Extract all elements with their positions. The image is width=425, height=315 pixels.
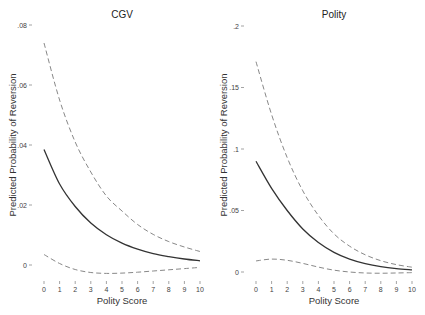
- x-tick-label: 9: [394, 286, 398, 293]
- panel-title-polity: Polity: [322, 9, 346, 20]
- x-axis-label-cgv: Polity Score: [97, 295, 148, 306]
- y-tick-label: .2: [233, 23, 239, 30]
- plot-lines-polity: [256, 62, 412, 274]
- x-tick-label: 5: [332, 286, 336, 293]
- y-tick-label: .08: [17, 22, 27, 29]
- x-axis-label-polity: Polity Score: [309, 295, 360, 306]
- x-tick-label: 5: [120, 286, 124, 293]
- x-tick-label: 2: [73, 286, 77, 293]
- x-tick-label: 7: [363, 286, 367, 293]
- plot-lines-cgv: [44, 43, 200, 273]
- x-axis-ticks-cgv: 012345678910: [42, 281, 204, 293]
- predicted-probability-line: [256, 161, 412, 270]
- x-tick-label: 7: [151, 286, 155, 293]
- y-tick-label: .1: [233, 146, 239, 153]
- x-tick-label: 0: [42, 286, 46, 293]
- x-axis-ticks-polity: 012345678910: [254, 281, 416, 293]
- confidence-interval-line: [256, 62, 412, 268]
- y-tick-label: .04: [17, 142, 27, 149]
- x-tick-label: 8: [379, 286, 383, 293]
- y-tick-label: .02: [17, 202, 27, 209]
- x-tick-label: 10: [196, 286, 204, 293]
- y-tick-label: .15: [229, 84, 239, 91]
- chart-canvas: CGV Predicted Probability of Reversion P…: [0, 0, 425, 315]
- polity-panel: Polity Predicted Probability of Reversio…: [218, 9, 416, 306]
- y-axis-ticks-cgv: 0.02.04.06.08: [17, 22, 32, 269]
- y-axis-label-polity: Predicted Probability of Reversion: [218, 73, 229, 216]
- x-tick-label: 2: [285, 286, 289, 293]
- x-tick-label: 8: [167, 286, 171, 293]
- x-tick-label: 4: [104, 286, 108, 293]
- cgv-panel: CGV Predicted Probability of Reversion P…: [7, 9, 204, 306]
- x-tick-label: 6: [136, 286, 140, 293]
- x-tick-label: 1: [58, 286, 62, 293]
- x-tick-label: 10: [408, 286, 416, 293]
- x-tick-label: 0: [254, 286, 258, 293]
- confidence-interval-line: [256, 259, 412, 273]
- y-tick-label: .06: [17, 82, 27, 89]
- x-tick-label: 9: [182, 286, 186, 293]
- panel-title-cgv: CGV: [111, 9, 133, 20]
- x-tick-label: 6: [348, 286, 352, 293]
- y-axis-ticks-polity: 0.05.1.15.2: [229, 23, 244, 276]
- x-tick-label: 3: [89, 286, 93, 293]
- y-tick-label: .05: [229, 207, 239, 214]
- x-tick-label: 3: [301, 286, 305, 293]
- x-tick-label: 4: [316, 286, 320, 293]
- y-tick-label: 0: [23, 262, 27, 269]
- confidence-interval-line: [44, 43, 200, 252]
- y-tick-label: 0: [235, 269, 239, 276]
- x-tick-label: 1: [270, 286, 274, 293]
